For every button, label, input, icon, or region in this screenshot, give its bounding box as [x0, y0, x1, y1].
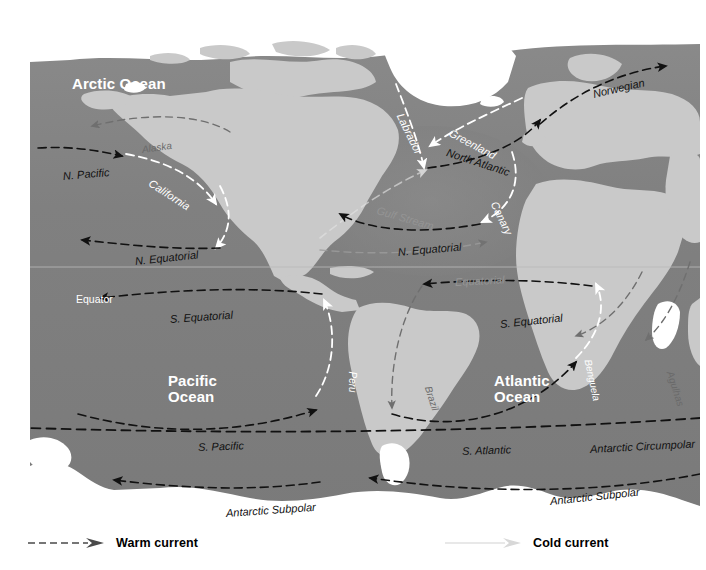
ocean-currents-map-page: Arctic OceanPacificOceanAtlanticOceanSou… — [0, 0, 706, 570]
legend-cold-current: Cold current — [445, 536, 609, 550]
legend-warm-label: Warm current — [116, 536, 198, 550]
map-graphic — [30, 36, 700, 522]
cold-current-arrow-icon — [445, 537, 523, 549]
legend-warm-current: Warm current — [28, 536, 198, 550]
map-legend: Warm current Cold current — [0, 530, 706, 562]
warm-current-arrow-icon — [28, 537, 106, 549]
world-map: Arctic OceanPacificOceanAtlanticOceanSou… — [30, 36, 700, 522]
legend-cold-label: Cold current — [533, 536, 609, 550]
